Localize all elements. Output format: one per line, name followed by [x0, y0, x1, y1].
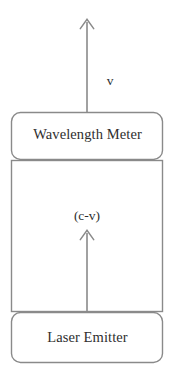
outgoing-beam-arrow	[80, 19, 93, 112]
velocity-label: v	[98, 74, 122, 88]
wavelength-meter-label: Wavelength Meter	[0, 127, 175, 142]
laser-emitter-label: Laser Emitter	[0, 330, 175, 345]
diagram-graphics	[0, 0, 175, 383]
relative-speed-label: (c-v)	[55, 209, 119, 223]
diagram-canvas: Wavelength Meter Laser Emitter v (c-v)	[0, 0, 175, 383]
